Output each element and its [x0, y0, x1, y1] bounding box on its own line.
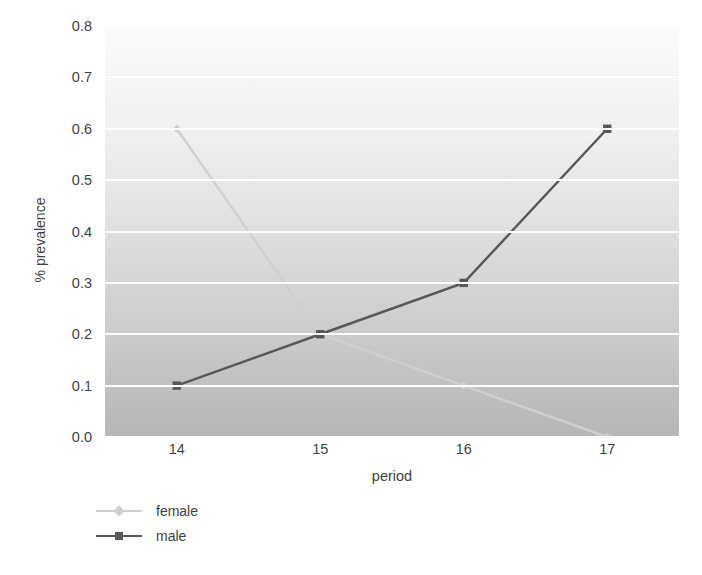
x-tick-label: 15: [312, 441, 328, 457]
x-tick-label: 16: [456, 441, 472, 457]
gridline: [105, 231, 679, 233]
legend-key-female: [96, 504, 142, 518]
y-tick-label: 0.8: [72, 18, 92, 34]
gridline: [105, 282, 679, 284]
legend-marker-square-icon: [115, 532, 123, 540]
x-axis-ticks: 14151617: [105, 441, 679, 465]
gridline: [105, 333, 679, 335]
x-axis-label: period: [105, 468, 679, 484]
y-tick-label: 0.6: [72, 121, 92, 137]
legend-label: female: [142, 503, 198, 519]
y-tick-label: 0.7: [72, 69, 92, 85]
gridline: [105, 179, 679, 181]
plot-area: [105, 26, 679, 437]
gridline: [105, 436, 679, 437]
gridline: [105, 76, 679, 78]
y-tick-label: 0.3: [72, 275, 92, 291]
legend-marker-diamond-icon: [113, 505, 124, 516]
chart-figure: % prevalence 0.00.10.20.30.40.50.60.70.8…: [0, 0, 702, 575]
chart-legend: femalemale: [96, 498, 356, 548]
y-axis-label: % prevalence: [28, 170, 52, 310]
y-axis-label-text: % prevalence: [32, 198, 48, 283]
y-tick-label: 0.1: [72, 378, 92, 394]
x-tick-label: 17: [599, 441, 615, 457]
legend-key-male: [96, 529, 142, 543]
gridline: [105, 26, 679, 27]
y-tick-label: 0.5: [72, 172, 92, 188]
gridline: [105, 128, 679, 130]
y-tick-label: 0.2: [72, 326, 92, 342]
series-line-male: [177, 129, 608, 386]
y-tick-label: 0.4: [72, 224, 92, 240]
legend-label: male: [142, 528, 186, 544]
y-axis-ticks: 0.00.10.20.30.40.50.60.70.8: [52, 26, 98, 437]
legend-item-male[interactable]: male: [96, 523, 356, 548]
legend-item-female[interactable]: female: [96, 498, 356, 523]
gridline: [105, 385, 679, 387]
y-tick-label: 0.0: [72, 429, 92, 445]
x-tick-label: 14: [169, 441, 185, 457]
